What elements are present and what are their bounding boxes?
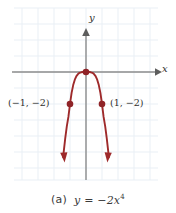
point-left — [67, 101, 74, 108]
point-origin — [83, 69, 90, 76]
point-label-left: (−1, −2) — [8, 97, 49, 108]
figure-caption: (a) y = −2x4 — [0, 186, 176, 213]
coordinate-plane-svg — [0, 0, 176, 186]
x-axis-label: x — [162, 63, 168, 74]
y-axis-label: y — [89, 12, 95, 23]
point-label-right: (1, −2) — [110, 97, 144, 108]
y-axis-arrowhead — [82, 28, 90, 36]
curve-left-arrowhead — [60, 152, 67, 162]
caption-equation-base: y = −2x — [74, 193, 120, 206]
curve-right-arrowhead — [105, 152, 112, 162]
point-right — [99, 101, 106, 108]
caption-equation-exponent: 4 — [120, 193, 125, 201]
caption-equation: y = −2x4 — [74, 193, 125, 207]
figure-container: y x (−1, −2) (1, −2) (a) y = −2x4 — [0, 0, 176, 213]
caption-label: (a) — [51, 193, 67, 206]
plot-area: y x (−1, −2) (1, −2) — [0, 0, 176, 186]
x-axis-arrowhead — [155, 68, 162, 76]
